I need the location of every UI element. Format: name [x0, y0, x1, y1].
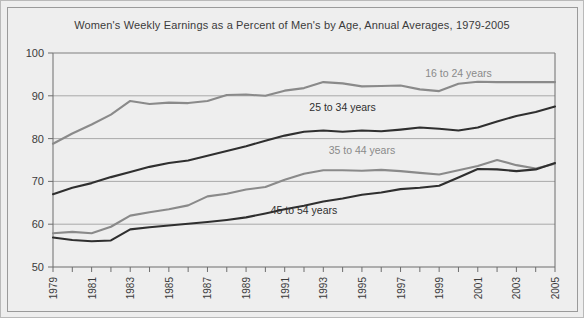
x-axis-tick-label: 1997 — [396, 277, 407, 300]
x-axis-tick-label: 1985 — [164, 277, 175, 300]
y-axis-tick-label: 60 — [32, 218, 44, 230]
x-axis-tick-label: 1993 — [318, 277, 329, 300]
axes-group — [53, 53, 555, 267]
series-label-3: 45 to 54 years — [271, 204, 338, 216]
series-line-2 — [53, 160, 555, 233]
gridlines-group — [53, 53, 555, 224]
y-axis-tick-label: 80 — [32, 133, 44, 145]
y-axis-tick-label: 100 — [26, 47, 44, 59]
x-axis-tick-label: 1983 — [125, 277, 136, 300]
series-line-0 — [53, 82, 555, 144]
x-axis-tick-label: 2005 — [550, 277, 561, 300]
x-axis-tick-label: 1981 — [87, 277, 98, 300]
x-axis-tick-label: 1979 — [48, 277, 59, 300]
x-axis-ticks-group: 1979198119831985198719891991199319951997… — [48, 267, 561, 299]
x-axis-tick-label: 1991 — [280, 277, 291, 300]
line-chart-plot: 5060708090100 19791981198319851987198919… — [1, 1, 584, 318]
y-axis-tick-label: 70 — [32, 175, 44, 187]
x-axis-tick-label: 2003 — [511, 277, 522, 300]
x-axis-tick-label: 1995 — [357, 277, 368, 300]
chart-frame: Women's Weekly Earnings as a Percent of … — [0, 0, 584, 318]
x-axis-tick-label: 1999 — [434, 277, 445, 300]
y-axis-tick-label: 50 — [32, 261, 44, 273]
x-axis-tick-label: 2001 — [473, 277, 484, 300]
x-axis-tick-label: 1987 — [202, 277, 213, 300]
series-label-0: 16 to 24 years — [425, 67, 492, 79]
data-series-group — [53, 82, 555, 242]
y-axis-ticks-group: 5060708090100 — [26, 47, 53, 273]
series-label-1: 25 to 34 years — [309, 101, 376, 113]
x-axis-tick-label: 1989 — [241, 277, 252, 300]
series-label-2: 35 to 44 years — [329, 144, 396, 156]
y-axis-tick-label: 90 — [32, 90, 44, 102]
